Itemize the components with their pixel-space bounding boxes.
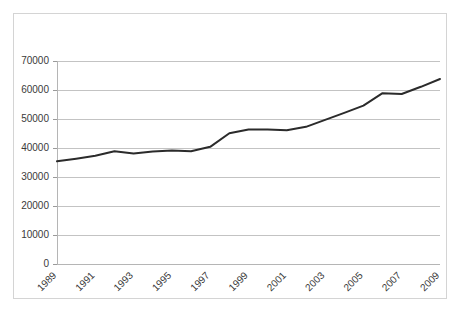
- chart-figure: 010000200003000040000500006000070000 198…: [0, 0, 463, 315]
- x-axis-tick-label: 1995: [150, 269, 174, 293]
- x-axis-tick-label: 1991: [73, 269, 97, 293]
- x-axis-tick-label: 2003: [303, 269, 327, 293]
- y-axis-tick-label: 0: [43, 258, 49, 269]
- x-axis-tick-label: 1989: [35, 269, 59, 293]
- y-axis-tick-label: 30000: [21, 171, 49, 182]
- plot-area-background: [57, 61, 440, 264]
- x-axis-tick-label: 2009: [418, 269, 442, 293]
- x-axis-tick-label: 2001: [265, 269, 289, 293]
- y-axis-tick-label: 20000: [21, 200, 49, 211]
- x-axis-tick-label: 1997: [188, 269, 212, 293]
- y-axis-tick-labels: 010000200003000040000500006000070000: [21, 55, 49, 269]
- x-axis-tick-label: 2007: [380, 269, 404, 293]
- y-axis-tick-label: 10000: [21, 229, 49, 240]
- x-axis-tick-label: 1999: [226, 269, 250, 293]
- y-axis-tick-marks: [53, 62, 57, 265]
- y-axis-tick-label: 60000: [21, 84, 49, 95]
- y-axis-tick-label: 40000: [21, 142, 49, 153]
- y-axis-tick-label: 50000: [21, 113, 49, 124]
- x-axis-tick-labels: 1989199119931995199719992001200320052007…: [35, 269, 442, 293]
- x-axis-tick-label: 1993: [112, 269, 136, 293]
- line-chart: 010000200003000040000500006000070000 198…: [0, 0, 463, 315]
- x-axis-tick-label: 2005: [341, 269, 365, 293]
- y-axis-tick-label: 70000: [21, 55, 49, 66]
